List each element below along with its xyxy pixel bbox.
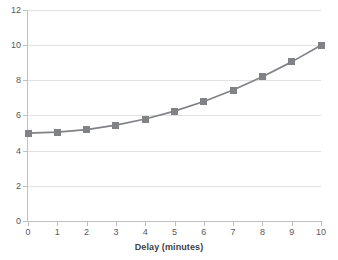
data-point-marker	[112, 122, 119, 129]
x-axis-tick-mark	[321, 221, 322, 226]
x-axis-tick-mark	[28, 221, 29, 226]
x-axis-tick-mark	[262, 221, 263, 226]
data-point-marker	[318, 42, 325, 49]
x-axis-tick-label: 8	[250, 228, 274, 237]
x-axis-tick-label: 10	[309, 228, 333, 237]
x-axis-tick-labels: 012345678910	[0, 228, 338, 240]
x-axis-tick-mark	[116, 221, 117, 226]
x-axis-tick-mark	[292, 221, 293, 226]
x-axis-tick-mark	[175, 221, 176, 226]
x-axis-tick-label: 0	[16, 228, 40, 237]
x-axis-tick-mark	[87, 221, 88, 226]
x-axis-tick-label: 5	[163, 228, 187, 237]
data-point-marker	[54, 129, 61, 136]
data-point-marker	[25, 130, 32, 137]
x-axis-tick-label: 7	[221, 228, 245, 237]
x-axis-tick-mark	[57, 221, 58, 226]
data-point-marker	[142, 116, 149, 123]
x-axis-tick-label: 2	[75, 228, 99, 237]
x-axis-tick-label: 3	[104, 228, 128, 237]
x-axis-tick-label: 9	[280, 228, 304, 237]
data-series-line	[0, 0, 338, 260]
data-point-marker	[230, 87, 237, 94]
data-point-marker	[83, 126, 90, 133]
x-axis-tick-label: 1	[45, 228, 69, 237]
data-point-marker	[288, 58, 295, 65]
x-axis-title: Delay (minutes)	[0, 242, 338, 252]
x-axis-tick-mark	[204, 221, 205, 226]
x-axis-tick-label: 6	[192, 228, 216, 237]
data-point-marker	[200, 98, 207, 105]
data-point-marker	[259, 73, 266, 80]
data-point-marker	[171, 108, 178, 115]
line-chart: 12 10 8 6 4 2 0 012345678910 Delay (minu…	[0, 0, 338, 260]
x-axis-tick-label: 4	[133, 228, 157, 237]
x-axis-tick-mark	[145, 221, 146, 226]
x-axis-tick-mark	[233, 221, 234, 226]
